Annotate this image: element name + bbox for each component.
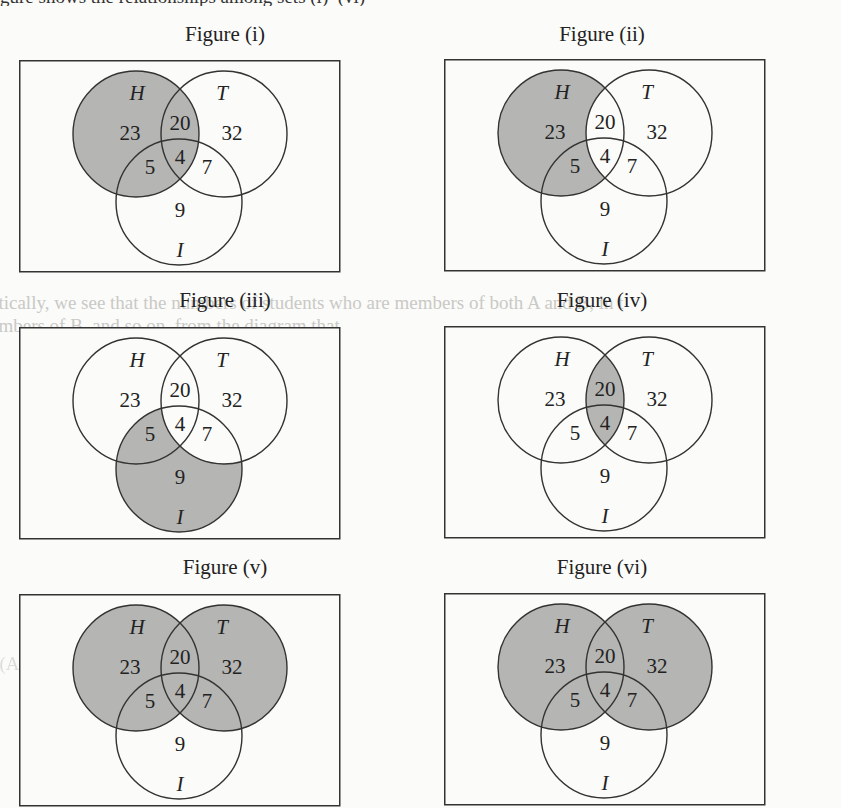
cutoff-text-line: gure shows the relationships among sets … bbox=[0, 0, 841, 6]
region-count-h-and-t-only: 20 bbox=[170, 378, 191, 402]
venn-diagram-vi: HTI2320324579 bbox=[444, 593, 764, 807]
region-count-h-and-t-and-i: 4 bbox=[600, 678, 611, 702]
figure-title-ii: Figure (ii) bbox=[442, 24, 762, 45]
region-count-t-and-i-only: 7 bbox=[202, 689, 213, 713]
set-label-i: I bbox=[176, 238, 185, 262]
region-count-i-only: 9 bbox=[175, 465, 186, 489]
region-count-t-and-i-only: 7 bbox=[627, 688, 638, 712]
region-count-t-only: 32 bbox=[647, 387, 668, 411]
region-count-h-and-t-only: 20 bbox=[170, 645, 191, 669]
region-count-t-only: 32 bbox=[222, 655, 243, 679]
set-label-t: T bbox=[216, 81, 229, 105]
set-label-i: I bbox=[601, 237, 610, 261]
figure-title-v: Figure (v) bbox=[65, 557, 385, 578]
region-count-t-and-i-only: 7 bbox=[627, 154, 638, 178]
region-count-h-and-t-only: 20 bbox=[595, 644, 616, 668]
set-label-h: H bbox=[128, 81, 146, 105]
region-count-h-and-i-only: 5 bbox=[570, 154, 581, 178]
region-count-i-only: 9 bbox=[600, 731, 611, 755]
region-count-h-and-t-and-i: 4 bbox=[600, 411, 611, 435]
figure-title-i: Figure (i) bbox=[65, 24, 385, 45]
set-label-i: I bbox=[601, 771, 610, 795]
figure-title-iii: Figure (iii) bbox=[65, 290, 385, 311]
set-label-h: H bbox=[553, 80, 571, 104]
venn-diagram-ii: HTI2320324579 bbox=[444, 59, 764, 273]
region-count-t-and-i-only: 7 bbox=[627, 421, 638, 445]
region-count-h-and-i-only: 5 bbox=[570, 688, 581, 712]
set-label-t: T bbox=[216, 348, 229, 372]
region-count-t-only: 32 bbox=[647, 120, 668, 144]
set-label-h: H bbox=[553, 347, 571, 371]
region-count-t-and-i-only: 7 bbox=[202, 155, 213, 179]
region-count-i-only: 9 bbox=[175, 198, 186, 222]
region-count-h-and-t-and-i: 4 bbox=[175, 679, 186, 703]
figure-title-vi: Figure (vi) bbox=[442, 557, 762, 578]
set-label-h: H bbox=[553, 614, 571, 638]
venn-diagram-iv: HTI2320324579 bbox=[444, 326, 764, 540]
region-count-h-only: 23 bbox=[545, 654, 566, 678]
set-label-h: H bbox=[128, 615, 146, 639]
set-label-t: T bbox=[641, 347, 654, 371]
region-count-h-and-i-only: 5 bbox=[570, 421, 581, 445]
region-count-h-only: 23 bbox=[545, 120, 566, 144]
region-count-i-only: 9 bbox=[600, 464, 611, 488]
set-label-t: T bbox=[641, 80, 654, 104]
region-count-t-only: 32 bbox=[222, 121, 243, 145]
region-count-h-only: 23 bbox=[120, 388, 141, 412]
region-count-h-and-i-only: 5 bbox=[145, 422, 156, 446]
set-label-i: I bbox=[601, 504, 610, 528]
venn-diagram-v: HTI2320324579 bbox=[19, 594, 341, 808]
region-count-h-only: 23 bbox=[120, 121, 141, 145]
figure-title-iv: Figure (iv) bbox=[442, 290, 762, 311]
region-count-i-only: 9 bbox=[600, 197, 611, 221]
region-count-i-only: 9 bbox=[175, 732, 186, 756]
set-label-t: T bbox=[216, 615, 229, 639]
region-count-h-and-t-only: 20 bbox=[595, 110, 616, 134]
region-count-h-only: 23 bbox=[120, 655, 141, 679]
region-count-h-and-t-and-i: 4 bbox=[175, 412, 186, 436]
region-count-h-and-t-and-i: 4 bbox=[600, 144, 611, 168]
set-label-i: I bbox=[176, 505, 185, 529]
venn-diagram-i: HTI2320324579 bbox=[19, 60, 341, 274]
region-count-t-only: 32 bbox=[222, 388, 243, 412]
region-count-h-and-t-only: 20 bbox=[170, 111, 191, 135]
region-count-h-and-i-only: 5 bbox=[145, 689, 156, 713]
region-count-h-and-t-only: 20 bbox=[595, 377, 616, 401]
venn-diagram-iii: HTI2320324579 bbox=[19, 327, 341, 541]
region-count-h-only: 23 bbox=[545, 387, 566, 411]
set-label-i: I bbox=[176, 772, 185, 796]
set-label-t: T bbox=[641, 614, 654, 638]
set-label-h: H bbox=[128, 348, 146, 372]
region-count-h-and-i-only: 5 bbox=[145, 155, 156, 179]
region-count-h-and-t-and-i: 4 bbox=[175, 145, 186, 169]
region-count-t-only: 32 bbox=[647, 654, 668, 678]
region-count-t-and-i-only: 7 bbox=[202, 422, 213, 446]
